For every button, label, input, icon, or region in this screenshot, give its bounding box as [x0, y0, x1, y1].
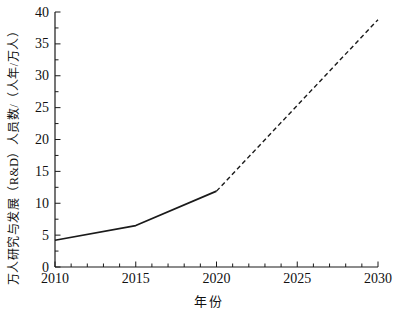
x-axis-title: 年份 [24, 291, 393, 310]
x-tick-label: 2025 [283, 271, 311, 286]
rd-personnel-line-chart: 201020152020202520300510152025303540 万人研… [0, 0, 393, 313]
y-tick-label: 30 [35, 68, 49, 83]
plot-area: 201020152020202520300510152025303540 [0, 0, 393, 313]
y-tick-label: 15 [35, 164, 49, 179]
y-tick-label: 10 [35, 196, 49, 211]
series-observed-2010-2020 [55, 191, 217, 240]
y-tick-label: 0 [42, 260, 49, 275]
y-tick-label: 5 [42, 228, 49, 243]
y-tick-label: 35 [35, 36, 49, 51]
x-tick-label: 2020 [203, 271, 231, 286]
series-projected-2020-2030 [217, 20, 379, 191]
x-tick-label: 2030 [364, 271, 392, 286]
y-tick-label: 20 [35, 132, 49, 147]
y-tick-label: 40 [35, 5, 49, 20]
y-axis-title: 万人研究与发展（R&D）人员数/（人年/万人） [4, 25, 22, 285]
x-tick-label: 2015 [122, 271, 150, 286]
y-tick-label: 25 [35, 100, 49, 115]
